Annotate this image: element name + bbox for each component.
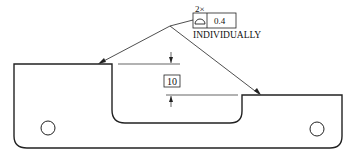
leader-left [100,26,170,63]
leader-right-arrow-icon [254,88,261,95]
multiplier-label: 2× [195,4,205,14]
part-outline [14,64,342,148]
tolerance-value: 0.4 [214,16,226,26]
technical-drawing: 10 2× 0.4 INDIVIDUALLY [0,0,353,159]
profile-of-a-surface-icon [195,19,205,24]
leader-left-arrow-icon [98,58,106,64]
leader-connector [170,20,193,26]
arrow-down-icon [169,57,173,63]
left-hole [41,121,55,135]
individually-note: INDIVIDUALLY [193,30,261,40]
dimension-value: 10 [167,76,177,87]
arrow-up-icon [169,96,173,102]
right-hole [310,122,324,136]
